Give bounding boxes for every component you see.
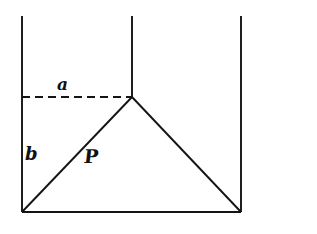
label-p: P bbox=[83, 147, 100, 166]
geometry-diagram: a b P bbox=[0, 0, 317, 234]
label-a: a bbox=[57, 76, 68, 93]
left-diagonal-p bbox=[22, 97, 132, 212]
diagram-canvas bbox=[0, 0, 317, 234]
label-b: b bbox=[25, 145, 38, 163]
right-diagonal bbox=[132, 97, 241, 212]
